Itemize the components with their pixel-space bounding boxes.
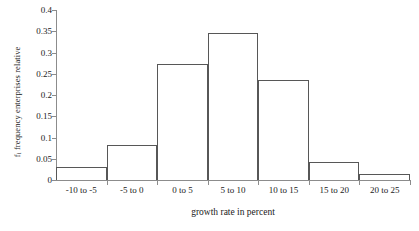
y-axis-tick-label: 0.15 [14, 112, 52, 121]
histogram-chart: fi frequency enterprises relative 00.050… [0, 0, 419, 231]
y-axis-tick-label: 0.3 [14, 48, 52, 57]
y-axis-tick-mark [52, 159, 56, 160]
y-axis-tick-labels: 00.050.10.150.20.250.30.350.4 [14, 0, 52, 231]
x-axis-tick-mark [107, 180, 108, 185]
y-axis-tick-mark [52, 180, 56, 181]
x-axis-tick-label: 5 to 10 [220, 186, 245, 195]
x-axis-tick-label: -5 to 0 [120, 186, 144, 195]
y-axis-tick-label: 0 [14, 176, 52, 185]
x-axis-line [56, 180, 411, 181]
x-axis-tick-label: 15 to 20 [319, 186, 349, 195]
histogram-bar [258, 80, 309, 180]
x-axis-tick-label: 20 to 25 [370, 186, 400, 195]
y-axis-tick-label: 0.2 [14, 91, 52, 100]
y-axis-tick-label: 0.35 [14, 27, 52, 36]
y-axis-tick-mark [52, 31, 56, 32]
histogram-bar [359, 174, 410, 180]
x-axis-tick-mark [157, 180, 158, 185]
x-axis-tick-mark [258, 180, 259, 185]
histogram-bar [107, 145, 158, 180]
x-axis-tick-labels: -10 to -5-5 to 00 to 55 to 1010 to 1515 … [56, 186, 410, 202]
y-axis-tick-mark [52, 138, 56, 139]
plot-area [56, 10, 410, 180]
histogram-bar [208, 33, 259, 180]
x-axis-title: growth rate in percent [56, 208, 410, 218]
y-axis-tick-label: 0.4 [14, 6, 52, 15]
x-axis-tick-mark [309, 180, 310, 185]
y-axis-tick-label: 0.05 [14, 154, 52, 163]
y-axis-tick-mark [52, 95, 56, 96]
x-axis-tick-mark [410, 180, 411, 185]
x-axis-tick-label: 0 to 5 [172, 186, 193, 195]
y-axis-tick-label: 0.1 [14, 133, 52, 142]
x-axis-tick-mark [208, 180, 209, 185]
bars-layer [56, 10, 410, 180]
x-axis-tick-label: 10 to 15 [269, 186, 299, 195]
histogram-bar [309, 162, 360, 180]
histogram-bar [56, 167, 107, 180]
y-axis-tick-mark [52, 74, 56, 75]
y-axis-tick-mark [52, 116, 56, 117]
x-axis-tick-label: -10 to -5 [66, 186, 97, 195]
y-axis-tick-mark [52, 10, 56, 11]
y-axis-tick-mark [52, 53, 56, 54]
y-axis-tick-label: 0.25 [14, 69, 52, 78]
histogram-bar [157, 64, 208, 180]
x-axis-tick-mark [359, 180, 360, 185]
